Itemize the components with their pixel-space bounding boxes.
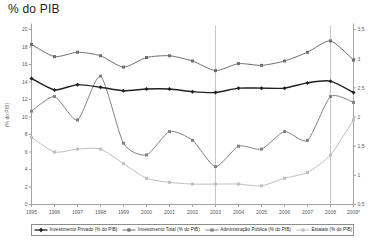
x-axis-tick-label: 2008 [325, 209, 336, 215]
data-point-marker [76, 51, 79, 54]
y2-axis-tick-label: 2 [358, 114, 361, 120]
series-3 [30, 118, 355, 187]
data-point-marker [329, 79, 333, 83]
x-axis-tick-label: 2001 [164, 209, 175, 215]
data-point-marker [122, 66, 125, 69]
x-axis-tick-label: 2002 [187, 209, 198, 215]
data-point-marker [99, 75, 102, 78]
x-axis-tick-label: 1995 [26, 209, 37, 215]
data-point-marker [306, 171, 309, 174]
data-point-marker [168, 130, 171, 133]
y-axis-tick-label: 10 [22, 114, 28, 120]
y-axis-tick-label: 6 [25, 149, 28, 155]
series-line [32, 120, 354, 186]
data-point-marker [191, 139, 194, 142]
x-axis-tick-label: 2004 [233, 209, 244, 215]
data-point-marker [145, 87, 149, 91]
data-point-marker [306, 139, 309, 142]
legend-marker-icon [205, 226, 219, 234]
legend-item-1[interactable]: Investimento Total (% do PIB) [122, 226, 199, 234]
data-point-marker [191, 60, 194, 63]
x-axis-tick-label: 2003 [210, 209, 221, 215]
x-axis-tick-label: 2000 [141, 209, 152, 215]
legend-item-0[interactable]: Investimento Privado (% do PIB) [34, 226, 117, 234]
x-axis-tick-label: 2009* [347, 209, 360, 215]
data-point-marker [30, 110, 33, 113]
data-point-marker [214, 69, 217, 72]
data-point-marker [283, 86, 287, 90]
chart-container: % do PIB 024681012141618200,511,522,533,… [0, 0, 386, 240]
data-point-marker [283, 177, 286, 180]
data-point-marker [329, 95, 332, 98]
x-axis-tick-label: 2007 [302, 209, 313, 215]
data-point-marker [53, 151, 56, 154]
y2-axis-tick-label: 1 [358, 172, 361, 178]
legend-item-label: Investimento Privado (% do PIB) [50, 227, 118, 233]
data-point-marker [352, 59, 355, 62]
data-point-marker [329, 39, 332, 42]
data-point-marker [352, 118, 355, 121]
y2-axis-tick-label: 3,5 [358, 26, 365, 32]
y2-axis-tick-label: 1,5 [358, 143, 365, 149]
chart-legend: Investimento Privado (% do PIB)Investime… [31, 224, 354, 236]
data-point-marker [99, 85, 103, 89]
x-axis-tick-label: 1997 [72, 209, 83, 215]
legend-item-3[interactable]: Estatais (% do PIB) [296, 226, 352, 234]
y2-axis-tick-label: 0,5 [358, 201, 365, 207]
data-point-marker [260, 148, 263, 151]
x-axis-tick-label: 2005 [256, 209, 267, 215]
y2-axis-tick-label: 3 [358, 56, 361, 62]
data-point-marker [214, 91, 218, 95]
data-point-marker [122, 142, 125, 145]
data-point-marker [168, 87, 172, 91]
data-point-marker [283, 130, 286, 133]
y-axis-tick-label: 0 [25, 201, 28, 207]
data-point-marker [53, 55, 56, 58]
x-axis-tick-label: 2006 [279, 209, 290, 215]
data-point-marker [145, 177, 148, 180]
data-point-marker [306, 81, 310, 85]
y2-axis-tick-label: 2,5 [358, 85, 365, 91]
data-point-marker [329, 153, 332, 156]
data-point-marker [145, 56, 148, 59]
y-axis-tick-label: 20 [22, 26, 28, 32]
data-point-marker [237, 86, 241, 90]
data-point-marker [76, 118, 79, 121]
data-point-marker [260, 184, 263, 187]
data-point-marker [122, 89, 126, 93]
data-point-marker [145, 153, 148, 156]
data-point-marker [260, 64, 263, 67]
series-1 [30, 39, 355, 72]
y-axis-tick-label: 4 [25, 166, 28, 172]
y-axis-tick-label: 14 [22, 79, 28, 85]
series-line [32, 41, 354, 71]
data-point-marker [99, 54, 102, 57]
legend-marker-icon [122, 226, 136, 234]
data-point-marker [214, 165, 217, 168]
legend-item-label: Administração Pública (% do PIB) [220, 227, 291, 233]
data-point-marker [352, 101, 355, 104]
y-axis-tick-label: 18 [22, 44, 28, 50]
y-axis-title: (% do PIB) [4, 103, 10, 128]
series-2 [30, 75, 355, 168]
y-axis-tick-label: 12 [22, 96, 28, 102]
legend-item-label: Investimento Total (% do PIB) [138, 227, 200, 233]
data-point-marker [237, 145, 240, 148]
data-point-marker [237, 62, 240, 65]
y-axis-tick-label: 8 [25, 131, 28, 137]
data-point-marker [306, 51, 309, 54]
data-point-marker [168, 181, 171, 184]
x-axis-tick-label: 1999 [118, 209, 129, 215]
data-point-marker [191, 183, 194, 186]
data-point-marker [283, 60, 286, 63]
legend-marker-icon [34, 226, 48, 234]
x-axis-tick-label: 1996 [49, 209, 60, 215]
data-point-marker [53, 88, 57, 92]
chart-plot-area: 024681012141618200,511,522,533,519951996… [0, 0, 386, 240]
data-point-marker [191, 90, 195, 94]
data-point-marker [30, 43, 33, 46]
legend-item-2[interactable]: Administração Pública (% do PIB) [205, 226, 291, 234]
y-axis-tick-label: 16 [22, 61, 28, 67]
series-0 [30, 77, 356, 95]
data-point-marker [168, 54, 171, 57]
